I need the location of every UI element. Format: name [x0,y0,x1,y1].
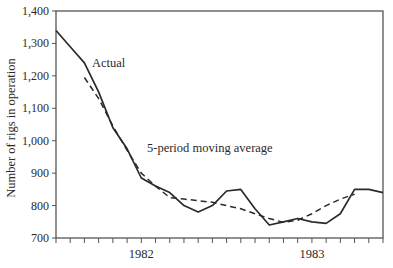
y-tick-label: 900 [31,166,49,180]
y-axis-label: Number of rigs in operation [4,57,18,197]
y-tick-label: 800 [31,199,49,213]
y-tick-label: 1,200 [22,69,49,83]
x-year-label: 1982 [129,247,154,261]
y-tick-label: 1,300 [22,36,49,50]
y-tick-label: 1,400 [22,4,49,18]
plot-border [56,11,383,238]
line-chart: 7008009001,0001,1001,2001,3001,400 19821… [0,0,393,268]
x-year-label: 1983 [299,247,324,261]
y-tick-label: 700 [31,231,49,245]
annotation-actual: Actual [92,56,126,70]
y-axis: 7008009001,0001,1001,2001,3001,400 [22,4,56,245]
plot-frame [56,11,383,238]
y-tick-label: 1,000 [22,134,49,148]
annotation-moving-average: 5-period moving average [147,141,273,155]
x-axis: 19821983 [56,238,383,261]
y-tick-label: 1,100 [22,101,49,115]
